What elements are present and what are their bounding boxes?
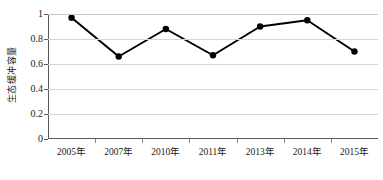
x-tick-label: 2014年 [293, 148, 322, 158]
x-tick-label: 2015年 [340, 148, 369, 158]
gridline [48, 14, 378, 15]
y-tick-mark [44, 89, 48, 90]
gridline [48, 89, 378, 90]
y-axis-tick-labels: 00.20.40.60.81 [18, 0, 46, 148]
y-tick-mark [44, 139, 48, 140]
y-tick-label: 0 [38, 134, 43, 144]
data-point-marker [257, 23, 263, 29]
x-tick-label: 2013年 [246, 148, 275, 158]
y-tick-label: 0.4 [31, 84, 44, 94]
plot-area [48, 14, 378, 139]
series-line-生态缓冲容量 [48, 14, 378, 139]
y-tick-label: 1 [38, 9, 43, 19]
data-point-marker [304, 17, 310, 23]
data-point-marker [116, 53, 122, 59]
x-tick-label: 2007年 [104, 148, 133, 158]
data-point-marker [163, 26, 169, 32]
y-tick-mark [44, 64, 48, 65]
series-polyline [72, 18, 355, 57]
line-chart: 生态缓冲容量 00.20.40.60.81 2005年2007年2010年201… [0, 0, 383, 180]
data-point-marker [68, 15, 74, 21]
gridline [48, 64, 378, 65]
gridline [48, 114, 378, 115]
data-point-marker [351, 48, 357, 54]
x-tick-label: 2005年 [57, 148, 86, 158]
y-tick-label: 0.8 [31, 34, 44, 44]
x-tick-label: 2010年 [151, 148, 180, 158]
y-tick-label: 0.2 [31, 109, 44, 119]
y-tick-mark [44, 39, 48, 40]
x-axis-tick-labels: 2005年2007年2010年2011年2013年2014年2015年 [48, 142, 378, 164]
data-point-marker [210, 52, 216, 58]
y-tick-mark [44, 114, 48, 115]
x-tick-label: 2011年 [199, 148, 228, 158]
gridline [48, 39, 378, 40]
y-axis-title-text: 生态缓冲容量 [5, 46, 18, 103]
y-tick-label: 0.6 [31, 59, 44, 69]
y-tick-mark [44, 14, 48, 15]
